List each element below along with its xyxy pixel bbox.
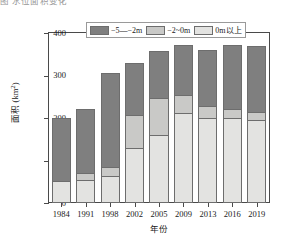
- bar-segment: [198, 106, 217, 118]
- bar-segment: [174, 113, 193, 203]
- bar-segment: [125, 148, 144, 203]
- bar-segment: [101, 73, 120, 167]
- legend-label: 0m以上: [215, 26, 241, 35]
- legend-item[interactable]: 0m以上: [194, 26, 241, 35]
- x-tick-mark: [135, 203, 136, 207]
- bar-segment: [149, 51, 168, 98]
- x-tick-mark: [110, 203, 111, 207]
- x-tick-label: 2019: [240, 209, 274, 219]
- bar-1984[interactable]: [52, 33, 71, 203]
- bar-segment: [223, 118, 242, 203]
- x-tick-mark: [86, 203, 87, 207]
- bar-2002[interactable]: [125, 33, 144, 203]
- bar-segment: [223, 45, 242, 109]
- x-tick-mark: [183, 203, 184, 207]
- y-tick-mark: [44, 203, 49, 204]
- bar-segment: [76, 180, 95, 203]
- legend-swatch: [90, 26, 109, 35]
- legend-item[interactable]: −5—−2m: [90, 26, 142, 35]
- bar-2013[interactable]: [198, 33, 217, 203]
- legend-swatch: [194, 26, 213, 35]
- bar-segment: [247, 112, 266, 119]
- legend-item[interactable]: −2~0m: [146, 26, 190, 35]
- bar-segment: [174, 95, 193, 113]
- bar-segment: [247, 120, 266, 203]
- bar-1991[interactable]: [76, 33, 95, 203]
- bar-2005[interactable]: [149, 33, 168, 203]
- bar-segment: [223, 109, 242, 118]
- legend-label: −2~0m: [167, 26, 190, 35]
- x-tick-mark: [208, 203, 209, 207]
- legend-swatch: [146, 26, 165, 35]
- legend-label: −5—−2m: [111, 26, 142, 35]
- bar-segment: [149, 98, 168, 136]
- bar-segment: [52, 118, 71, 180]
- chart-figure: 图 水位面积变化 面积 (km2) 0100200300400 年份 −5—−2…: [0, 0, 294, 245]
- bar-2019[interactable]: [247, 33, 266, 203]
- bar-segment: [198, 50, 217, 106]
- bar-segment: [149, 135, 168, 203]
- bar-segment: [101, 176, 120, 203]
- y-axis-title-main: 面积 (km: [10, 89, 20, 123]
- bar-2009[interactable]: [174, 33, 193, 203]
- figure-caption-clipped: 图 水位面积变化: [0, 0, 294, 6]
- bar-segment: [198, 118, 217, 203]
- bar-segment: [76, 109, 95, 174]
- bar-1998[interactable]: [101, 33, 120, 203]
- bar-segment: [76, 173, 95, 180]
- x-tick-mark: [159, 203, 160, 207]
- bar-segment: [125, 63, 144, 116]
- bar-segment: [247, 46, 266, 113]
- bar-segment: [52, 181, 71, 203]
- y-axis-title: 面积 (km2): [8, 66, 21, 138]
- x-tick-mark: [257, 203, 258, 207]
- x-tick-mark: [232, 203, 233, 207]
- bar-segment: [174, 45, 193, 96]
- plot-area: [49, 33, 269, 203]
- x-tick-mark: [61, 203, 62, 207]
- y-axis-title-tail: ): [10, 82, 20, 85]
- bar-segment: [125, 115, 144, 148]
- y-axis-title-superscript: 2: [9, 85, 17, 89]
- bar-2016[interactable]: [223, 33, 242, 203]
- x-axis-title: 年份: [48, 224, 270, 234]
- chart-legend: −5—−2m−2~0m0m以上: [86, 22, 246, 38]
- bar-segment: [101, 167, 120, 176]
